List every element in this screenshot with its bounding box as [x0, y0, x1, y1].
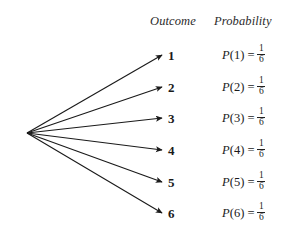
outcome-label-4: 4: [168, 144, 175, 157]
probability-expression-1: P(1)=16: [222, 44, 265, 66]
fraction-one-sixth: 16: [257, 171, 265, 193]
probability-fan-diagram: Outcome Probability 123456 P(1)=16P(2)=1…: [0, 0, 284, 244]
fraction-one-sixth: 16: [257, 202, 265, 224]
probability-argument: (6): [230, 207, 245, 220]
probability-argument: (4): [230, 144, 245, 157]
probability-argument: (3): [230, 112, 245, 125]
equals-sign: =: [247, 49, 254, 62]
probability-expression-2: P(2)=16: [222, 76, 265, 98]
fraction-numerator: 1: [258, 107, 265, 117]
fraction-denominator: 6: [258, 150, 265, 160]
probability-function-symbol: P: [222, 144, 230, 157]
fraction-denominator: 6: [258, 182, 265, 192]
fraction-one-sixth: 16: [257, 139, 265, 161]
probability-function-symbol: P: [222, 176, 230, 189]
probability-argument: (2): [230, 81, 245, 94]
probability-expression-4: P(4)=16: [222, 139, 265, 161]
probability-function-symbol: P: [222, 49, 230, 62]
probability-function-symbol: P: [222, 112, 230, 125]
outcome-label-1: 1: [168, 49, 175, 62]
branch-arrow-4: [27, 133, 162, 150]
fraction-numerator: 1: [258, 139, 265, 149]
fraction-one-sixth: 16: [257, 107, 265, 129]
probability-expression-6: P(6)=16: [222, 202, 265, 224]
equals-sign: =: [247, 81, 254, 94]
fraction-denominator: 6: [258, 118, 265, 128]
fraction-denominator: 6: [258, 87, 265, 97]
fraction-numerator: 1: [258, 171, 265, 181]
fraction-one-sixth: 16: [257, 76, 265, 98]
branch-arrow-6: [27, 133, 162, 213]
fraction-one-sixth: 16: [257, 44, 265, 66]
probability-expression-5: P(5)=16: [222, 171, 265, 193]
outcome-label-5: 5: [168, 176, 175, 189]
probability-expression-3: P(3)=16: [222, 107, 265, 129]
outcome-label-3: 3: [168, 112, 175, 125]
fraction-denominator: 6: [258, 55, 265, 65]
probability-argument: (1): [230, 49, 245, 62]
branch-arrow-5: [27, 133, 162, 182]
equals-sign: =: [247, 144, 254, 157]
outcome-label-6: 6: [168, 207, 175, 220]
equals-sign: =: [247, 207, 254, 220]
equals-sign: =: [247, 112, 254, 125]
probability-function-symbol: P: [222, 207, 230, 220]
outcome-label-2: 2: [168, 81, 175, 94]
fraction-numerator: 1: [258, 202, 265, 212]
probability-argument: (5): [230, 176, 245, 189]
fraction-numerator: 1: [258, 44, 265, 54]
fraction-numerator: 1: [258, 76, 265, 86]
fraction-denominator: 6: [258, 213, 265, 223]
arrow-lines: [27, 55, 162, 213]
equals-sign: =: [247, 176, 254, 189]
probability-function-symbol: P: [222, 81, 230, 94]
